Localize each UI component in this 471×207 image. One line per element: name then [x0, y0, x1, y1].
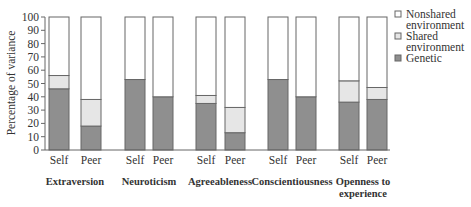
- x-sub-label: Self: [269, 154, 288, 166]
- bar-segment-nonshared-environment: [268, 17, 288, 80]
- bar-segment-nonshared-environment: [296, 17, 316, 97]
- x-sub-label: Self: [340, 154, 359, 166]
- bar-segment-genetic: [339, 102, 359, 150]
- legend-swatch: [395, 11, 401, 17]
- y-tick-label: 40: [28, 91, 40, 103]
- y-tick-label: 0: [33, 144, 39, 156]
- x-group-label: experience: [339, 188, 387, 199]
- legend-swatch: [395, 55, 401, 61]
- bar-segment-shared-environment: [81, 99, 101, 126]
- bar-segment-genetic: [225, 133, 245, 150]
- y-tick-label: 80: [28, 38, 40, 50]
- bar-segment-genetic: [49, 89, 69, 150]
- y-tick-label: 60: [28, 64, 40, 76]
- bar-segment-nonshared-environment: [49, 17, 69, 76]
- bar-segment-genetic: [196, 103, 216, 150]
- stacked-bar-chart: 0102030405060708090100Percentage of vari…: [0, 0, 471, 207]
- bar-segment-genetic: [268, 80, 288, 150]
- bar-segment-nonshared-environment: [153, 17, 173, 97]
- bar-segment-nonshared-environment: [81, 17, 101, 99]
- y-tick-label: 20: [28, 117, 40, 129]
- y-tick-label: 70: [28, 51, 40, 63]
- bar-segment-nonshared-environment: [367, 17, 387, 87]
- bar-segment-shared-environment: [49, 76, 69, 89]
- bar-segment-genetic: [125, 80, 145, 150]
- x-sub-label: Peer: [367, 154, 388, 166]
- x-sub-label: Peer: [296, 154, 317, 166]
- bar-segment-nonshared-environment: [125, 17, 145, 80]
- legend-swatch: [395, 33, 401, 39]
- bar-segment-nonshared-environment: [225, 17, 245, 107]
- bar-segment-genetic: [81, 126, 101, 150]
- y-tick-label: 10: [28, 131, 40, 143]
- x-sub-label: Peer: [81, 154, 102, 166]
- x-sub-label: Peer: [153, 154, 174, 166]
- bar-segment-shared-environment: [225, 107, 245, 132]
- x-group-label: Openness to: [336, 176, 391, 187]
- x-sub-label: Self: [126, 154, 145, 166]
- bar-segment-nonshared-environment: [196, 17, 216, 95]
- y-tick-label: 30: [28, 104, 40, 116]
- y-axis-label: Percentage of variance: [5, 31, 18, 136]
- x-group-label: Neuroticism: [122, 176, 177, 187]
- y-tick-label: 50: [28, 78, 40, 90]
- legend-label: Genetic: [406, 52, 442, 64]
- x-group-label: Agreeableness: [188, 176, 252, 187]
- x-sub-label: Peer: [225, 154, 246, 166]
- x-group-label: Extraversion: [46, 176, 104, 187]
- bar-segment-genetic: [296, 97, 316, 150]
- bar-segment-shared-environment: [196, 95, 216, 103]
- y-tick-label: 100: [22, 11, 40, 23]
- x-sub-label: Self: [197, 154, 216, 166]
- bar-segment-genetic: [367, 99, 387, 150]
- x-group-label: Conscientiousness: [251, 176, 332, 187]
- bar-segment-genetic: [153, 97, 173, 150]
- y-tick-label: 90: [28, 24, 40, 36]
- chart-canvas: 0102030405060708090100Percentage of vari…: [0, 0, 471, 207]
- bar-segment-shared-environment: [367, 87, 387, 99]
- x-sub-label: Self: [50, 154, 69, 166]
- bar-segment-shared-environment: [339, 81, 359, 102]
- bar-segment-nonshared-environment: [339, 17, 359, 81]
